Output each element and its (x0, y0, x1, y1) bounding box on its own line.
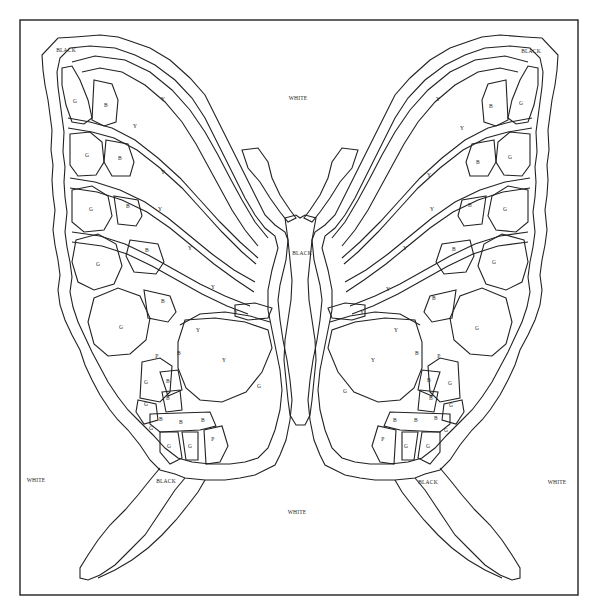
region-label-g: G (149, 425, 153, 431)
region-label-y: Y (460, 125, 464, 131)
region-label-b: B (452, 246, 456, 252)
region-label-g: G (475, 325, 479, 331)
region-label-g: G (167, 443, 171, 449)
region-label-g: G (508, 154, 512, 160)
region-label-y: Y (403, 245, 407, 251)
region-label-white: WHITE (289, 95, 308, 101)
region-label-g: G (144, 401, 148, 407)
region-label-b: B (166, 378, 170, 384)
left-wing-inner-border (57, 46, 282, 464)
region-label-g: G (96, 261, 100, 267)
region-label-g: G (492, 259, 496, 265)
region-label-g: G (449, 402, 453, 408)
region-label-b: B (179, 419, 183, 425)
region-label-black: BLACK (521, 48, 541, 54)
body-outline (284, 215, 316, 425)
region-label-y: Y (436, 96, 440, 102)
region-label-g: G (503, 206, 507, 212)
region-label-b: B (177, 350, 181, 356)
region-label-y: Y (222, 357, 226, 363)
region-label-white: WHITE (548, 479, 567, 485)
region-label-b: B (414, 417, 418, 423)
region-label-g: G (73, 98, 77, 104)
region-label-white: WHITE (288, 509, 307, 515)
region-label-b: B (159, 416, 163, 422)
region-label-g: G (404, 443, 408, 449)
region-label-b: B (145, 247, 149, 253)
left-tail (80, 468, 185, 580)
region-label-b: B (429, 395, 433, 401)
region-label-y: Y (360, 309, 364, 315)
region-label-g: G (119, 324, 123, 330)
region-label-g: G (448, 380, 452, 386)
region-label-b: B (166, 395, 170, 401)
region-label-y: Y (188, 245, 192, 251)
butterfly-body (284, 215, 316, 425)
region-label-y: Y (161, 96, 165, 102)
region-label-y: Y (386, 286, 390, 292)
region-label-b: B (118, 155, 122, 161)
region-label-b: B (201, 417, 205, 423)
region-label-y: Y (394, 327, 398, 333)
region-label-y: Y (234, 309, 238, 315)
region-label-g: G (426, 443, 430, 449)
region-label-g: G (188, 443, 192, 449)
region-label-y: Y (158, 206, 162, 212)
right-wing (304, 35, 558, 580)
region-label-g: G (519, 100, 523, 106)
region-label-g: G (343, 388, 347, 394)
region-label-black: BLACK (156, 478, 176, 484)
region-label-g: G (257, 383, 261, 389)
region-label-y: Y (427, 172, 431, 178)
region-label-white: WHITE (27, 477, 46, 483)
region-label-black: BLACK (56, 47, 76, 53)
butterfly-outline-drawing (0, 0, 595, 612)
region-label-p: P (155, 353, 158, 359)
region-label-p: P (381, 436, 384, 442)
region-label-y: Y (196, 327, 200, 333)
region-label-b: B (468, 202, 472, 208)
butterfly-diagram: BLACKBLACKWHITEBLACKWHITEWHITEBLACKBLACK… (0, 0, 595, 612)
region-label-y: Y (161, 169, 165, 175)
region-label-b: B (489, 103, 493, 109)
region-label-black: BLACK (292, 250, 312, 256)
region-label-y: Y (430, 206, 434, 212)
region-label-b: B (415, 350, 419, 356)
region-label-b: B (126, 203, 130, 209)
region-label-g: G (144, 379, 148, 385)
region-label-y: Y (211, 284, 215, 290)
region-label-b: B (393, 417, 397, 423)
region-label-b: B (427, 377, 431, 383)
region-label-b: B (104, 102, 108, 108)
left-wing (42, 35, 296, 580)
region-label-b: B (476, 159, 480, 165)
region-label-p: P (437, 353, 440, 359)
region-label-b: B (434, 415, 438, 421)
region-label-b: B (161, 298, 165, 304)
region-label-p: P (211, 436, 214, 442)
region-label-y: Y (133, 123, 137, 129)
region-label-g: G (444, 427, 448, 433)
region-label-g: G (89, 206, 93, 212)
region-label-y: Y (371, 357, 375, 363)
region-label-g: G (85, 152, 89, 158)
region-label-black: BLACK (418, 479, 438, 485)
region-label-b: B (432, 295, 436, 301)
